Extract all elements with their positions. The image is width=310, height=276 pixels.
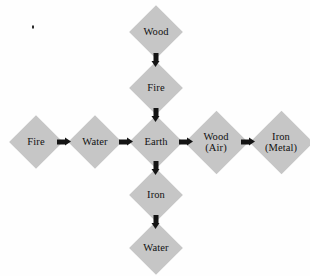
- arrow-head: [152, 223, 160, 229]
- node-label-line1: Earth: [144, 136, 167, 148]
- node-water-bottom[interactable]: Water: [129, 221, 183, 275]
- node-label-line1: Fire: [27, 136, 44, 148]
- node-label: Fire: [129, 61, 183, 115]
- node-label: Iron (Metal): [249, 110, 310, 174]
- arrow-right-icon: [119, 138, 133, 147]
- arrow-down-icon: [152, 53, 161, 67]
- arrow-tail: [57, 140, 65, 145]
- arrow-head: [187, 138, 193, 146]
- node-iron-lower[interactable]: Iron: [129, 168, 183, 222]
- node-label-line1: Wood: [143, 26, 168, 38]
- node-label-line1: Wood: [203, 131, 228, 143]
- arrow-tail: [241, 140, 249, 145]
- node-label: Iron: [129, 168, 183, 222]
- node-water-left[interactable]: Water: [68, 115, 122, 169]
- node-label: Wood: [129, 5, 183, 59]
- node-wood-top[interactable]: Wood: [129, 5, 183, 59]
- node-label: Wood (Air): [184, 110, 248, 174]
- arrow-head: [152, 169, 160, 175]
- arrow-tail: [154, 215, 159, 223]
- arrow-tail: [119, 140, 127, 145]
- node-label: Water: [129, 221, 183, 275]
- node-fire-upper[interactable]: Fire: [129, 61, 183, 115]
- arrow-down-icon: [152, 215, 161, 229]
- arrow-tail: [154, 161, 159, 169]
- arrow-down-icon: [152, 108, 161, 122]
- node-fire-left[interactable]: Fire: [9, 115, 63, 169]
- node-label: Fire: [9, 115, 63, 169]
- node-wood-air[interactable]: Wood (Air): [184, 110, 248, 174]
- arrow-right-icon: [241, 138, 255, 147]
- arrow-head: [65, 138, 71, 146]
- node-label-line1: Iron: [272, 131, 290, 143]
- scan-artifact-speck: [32, 26, 34, 29]
- arrow-down-icon: [152, 161, 161, 175]
- arrow-head: [127, 138, 133, 146]
- node-iron-metal[interactable]: Iron (Metal): [249, 110, 310, 174]
- node-label: Water: [68, 115, 122, 169]
- node-label-line2: (Air): [205, 142, 227, 154]
- element-cycle-diagram: Wood Fire Fire Water Earth Wood (Air): [0, 0, 310, 276]
- arrow-right-icon: [57, 138, 71, 147]
- node-label-line1: Water: [143, 242, 168, 254]
- arrow-tail: [154, 108, 159, 116]
- arrow-tail: [154, 53, 159, 61]
- arrow-head: [249, 138, 255, 146]
- node-label-line1: Fire: [147, 82, 164, 94]
- arrow-head: [152, 116, 160, 122]
- node-label-line1: Water: [82, 136, 107, 148]
- node-label-line1: Iron: [147, 189, 165, 201]
- arrow-tail: [179, 140, 187, 145]
- arrow-right-icon: [179, 138, 193, 147]
- arrow-head: [152, 61, 160, 67]
- node-label-line2: (Metal): [265, 142, 297, 154]
